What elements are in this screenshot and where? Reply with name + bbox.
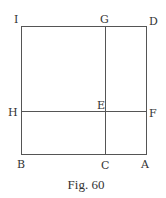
label-B: B bbox=[17, 158, 25, 171]
label-A: A bbox=[140, 158, 150, 171]
label-D: D bbox=[149, 15, 158, 28]
label-F: F bbox=[149, 107, 157, 120]
label-C: C bbox=[101, 159, 109, 172]
label-G: G bbox=[100, 13, 109, 26]
figure-caption: Fig. 60 bbox=[68, 177, 105, 192]
label-I: I bbox=[14, 13, 18, 26]
outer-rectangle-IDAB bbox=[22, 27, 147, 155]
label-H: H bbox=[8, 106, 18, 119]
geometric-figure: I G D H E F B C A Fig. 60 bbox=[0, 0, 166, 198]
label-E: E bbox=[97, 99, 105, 112]
